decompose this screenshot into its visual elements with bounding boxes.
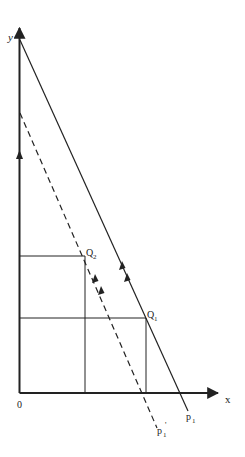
- origin-label: 0: [17, 399, 22, 410]
- point-q2-label: Q 2: [86, 247, 97, 261]
- svg-text:1: 1: [192, 417, 196, 425]
- y-axis-direction-arrow-icon: [16, 150, 23, 159]
- arrow-icon: [92, 274, 99, 283]
- budget-line-p1-prime: [20, 113, 157, 428]
- svg-text:1: 1: [163, 431, 167, 439]
- q1-guides: [20, 318, 147, 393]
- y-axis-label: y: [7, 31, 13, 43]
- svg-text:2: 2: [93, 253, 97, 261]
- svg-text:p: p: [157, 425, 162, 436]
- budget-line-p1: [20, 40, 188, 411]
- y-axis: [16, 28, 23, 393]
- svg-text:1: 1: [154, 315, 158, 323]
- arrow-icon: [98, 286, 105, 295]
- point-q1-label: Q 1: [147, 309, 158, 323]
- diagram-canvas: y x 0 Q 2 Q 1 p 1 p 1 ': [0, 0, 245, 457]
- arrow-icon: [119, 261, 126, 270]
- line-p1-prime-label: p 1 ': [157, 421, 167, 439]
- svg-text:p: p: [186, 411, 191, 422]
- x-axis-label: x: [225, 393, 231, 405]
- svg-text:': ': [165, 421, 167, 430]
- line-p1-label: p 1: [186, 411, 196, 425]
- q2-guides: [20, 256, 86, 393]
